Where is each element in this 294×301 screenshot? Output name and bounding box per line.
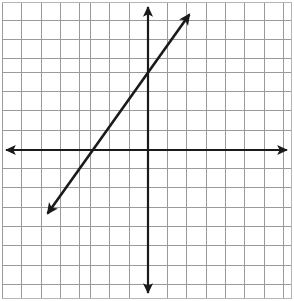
coordinate-plane-svg	[0, 0, 294, 301]
graph-figure	[0, 0, 294, 301]
